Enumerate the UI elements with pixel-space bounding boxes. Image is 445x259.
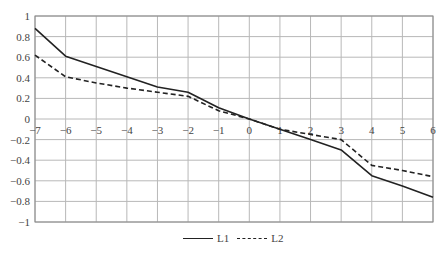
legend-item-l2: L2 bbox=[237, 232, 283, 244]
legend-item-l1: L1 bbox=[183, 232, 229, 244]
y-tick-label: −0.6 bbox=[10, 175, 30, 187]
series-l1 bbox=[35, 28, 433, 197]
legend: L1 L2 bbox=[183, 232, 291, 244]
x-axis-tick-labels: −7−6−5−4−3−2−10123456 bbox=[29, 124, 436, 136]
line-chart: 10.80.60.40.20−0.2−0.4−0.6−0.8−1 −7−6−5−… bbox=[0, 0, 445, 259]
x-tick-label: 6 bbox=[430, 124, 436, 136]
y-tick-label: 0.2 bbox=[16, 92, 30, 104]
data-series bbox=[35, 28, 433, 197]
x-tick-label: 5 bbox=[400, 124, 406, 136]
series-l2 bbox=[35, 55, 433, 177]
x-tick-label: 3 bbox=[338, 124, 344, 136]
x-tick-label: −1 bbox=[213, 124, 225, 136]
y-axis-tick-labels: 10.80.60.40.20−0.2−0.4−0.6−0.8−1 bbox=[10, 10, 30, 228]
y-tick-label: −0.2 bbox=[10, 134, 30, 146]
y-tick-label: 0.4 bbox=[16, 72, 30, 84]
x-tick-label: −4 bbox=[121, 124, 133, 136]
y-tick-label: −1 bbox=[18, 216, 30, 228]
grid-lines bbox=[35, 16, 433, 222]
y-tick-label: −0.8 bbox=[10, 195, 30, 207]
x-tick-label: −2 bbox=[182, 124, 194, 136]
legend-label-l2: L2 bbox=[271, 232, 283, 244]
x-tick-label: −6 bbox=[60, 124, 72, 136]
solid-line-icon bbox=[183, 238, 213, 239]
x-tick-label: 4 bbox=[369, 124, 375, 136]
x-tick-label: −5 bbox=[90, 124, 102, 136]
y-tick-label: 0.6 bbox=[16, 51, 30, 63]
x-tick-label: 0 bbox=[247, 124, 253, 136]
x-tick-label: −3 bbox=[152, 124, 164, 136]
y-tick-label: 1 bbox=[25, 10, 31, 22]
x-tick-label: −7 bbox=[29, 124, 41, 136]
dashed-line-icon bbox=[237, 238, 267, 239]
legend-label-l1: L1 bbox=[217, 232, 229, 244]
y-tick-label: 0.8 bbox=[16, 31, 30, 43]
y-tick-label: −0.4 bbox=[10, 154, 30, 166]
